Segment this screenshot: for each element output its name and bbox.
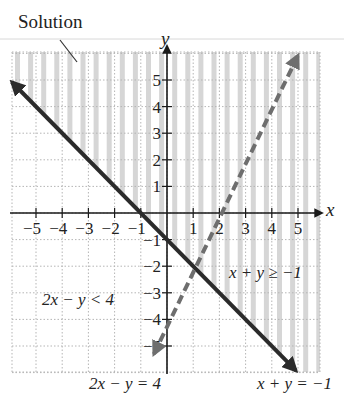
y-tick-label: 1 [153, 177, 162, 196]
y-tick-label: 4 [153, 98, 162, 117]
x-tick-label: −5 [23, 219, 41, 238]
solution-label: Solution [18, 11, 82, 33]
y-tick-label: 3 [153, 124, 162, 143]
x-tick-label: 4 [268, 219, 277, 238]
y-axis-label: y [161, 28, 169, 50]
graph-figure: −5−4−3−2−11234554321−1−2−3−4−5 Solution … [0, 0, 344, 402]
equation-2-label: 2x − y = 4 [89, 374, 161, 394]
x-tick-label: 5 [294, 219, 303, 238]
y-tick-label: −2 [143, 257, 161, 276]
y-tick-label: −4 [143, 310, 162, 329]
x-tick-label: 1 [189, 219, 198, 238]
inequality-1-label: x + y ≥ −1 [229, 263, 302, 283]
y-tick-label: 5 [153, 71, 162, 90]
y-tick-label: −3 [143, 284, 161, 303]
x-tick-label: 3 [241, 219, 250, 238]
x-tick-label: −4 [49, 219, 68, 238]
x-tick-label: −3 [75, 219, 93, 238]
coordinate-plane: −5−4−3−2−11234554321−1−2−3−4−5 [0, 0, 344, 402]
y-tick-label: 2 [153, 151, 162, 170]
equation-1-label: x + y = −1 [257, 374, 332, 394]
x-tick-label: −2 [102, 219, 120, 238]
inequality-2-label: 2x − y < 4 [42, 290, 114, 310]
x-axis-label: x [326, 199, 334, 221]
